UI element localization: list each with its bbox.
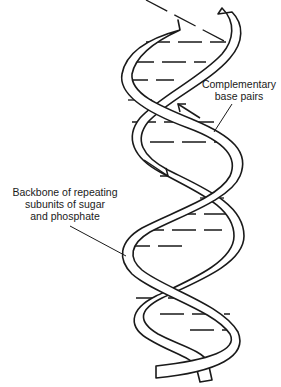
dna-double-helix-diagram: Complementary base pairs Backbone of rep… — [0, 0, 281, 387]
leader-line-backbone — [70, 226, 126, 256]
label-backbone: Backbone of repeating subunits of sugar … — [6, 186, 124, 222]
label-base-pairs-line-1: Complementary — [200, 78, 278, 90]
label-backbone-line-1: Backbone of repeating — [6, 186, 124, 198]
label-backbone-line-2: subunits of sugar — [6, 198, 124, 210]
leader-line-base-pairs — [214, 104, 232, 132]
label-base-pairs-line-2: base pairs — [200, 90, 278, 102]
label-backbone-line-3: and phosphate — [6, 210, 124, 222]
label-complementary-base-pairs: Complementary base pairs — [200, 78, 278, 102]
